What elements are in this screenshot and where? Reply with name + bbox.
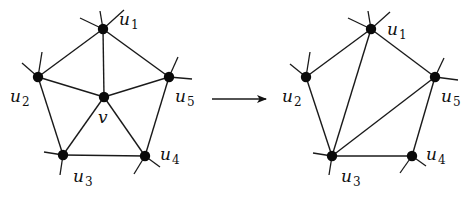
edge-u1-u2 xyxy=(38,29,103,77)
vertex-subscript: 3 xyxy=(85,175,93,189)
edge-u2-u3 xyxy=(306,77,332,156)
edge-u5-u1 xyxy=(103,29,169,77)
vertex-label-u4: u4 xyxy=(160,144,180,167)
vertex-label-u2: u2 xyxy=(282,86,302,109)
graph-transformation-diagram: u1u2u3u4u5v u1u2u3u4u5 xyxy=(0,0,472,200)
vertex-u1 xyxy=(98,24,108,34)
vertex-u2 xyxy=(33,72,43,82)
vertex-u5 xyxy=(164,72,174,82)
edge-u1-u2 xyxy=(306,29,371,77)
vertex-label-v: v xyxy=(98,107,108,127)
vertex-label-u3: u3 xyxy=(341,166,361,189)
vertex-u1 xyxy=(366,24,376,34)
vertex-u4 xyxy=(407,151,417,161)
vertex-label-u1: u1 xyxy=(387,19,407,42)
diagram-canvas: u1u2u3u4u5v u1u2u3u4u5 xyxy=(0,0,472,200)
vertex-label-u5: u5 xyxy=(441,86,461,109)
vertex-subscript: 4 xyxy=(172,153,180,167)
vertex-label-u2: u2 xyxy=(10,86,30,109)
vertex-subscript: 1 xyxy=(131,18,139,32)
vertex-subscript: 2 xyxy=(294,95,302,109)
vertex-label-u1: u1 xyxy=(119,9,139,32)
vertex-subscript: 2 xyxy=(22,95,30,109)
right-graph-after: u1u2u3u4u5 xyxy=(282,11,461,189)
edge-v-u4 xyxy=(104,97,145,156)
vertex-label-u3: u3 xyxy=(73,166,93,189)
vertex-u4 xyxy=(140,151,150,161)
vertex-subscript: 4 xyxy=(438,153,446,167)
vertex-u2 xyxy=(301,72,311,82)
edge-v-u2 xyxy=(38,77,104,97)
edge-v-u1 xyxy=(103,29,104,97)
edge-u2-u3 xyxy=(38,77,63,155)
edge-v-u5 xyxy=(104,77,169,97)
vertex-subscript: 3 xyxy=(353,175,361,189)
edge-u3-u1 xyxy=(332,29,371,156)
vertex-subscript: 1 xyxy=(399,28,407,42)
vertex-u5 xyxy=(430,72,440,82)
vertex-v xyxy=(99,92,109,102)
vertex-subscript: 5 xyxy=(453,95,461,109)
left-graph-before: u1u2u3u4u5v xyxy=(10,9,195,189)
vertex-subscript: 5 xyxy=(187,95,195,109)
vertex-u3 xyxy=(58,150,68,160)
vertex-label-u4: u4 xyxy=(426,144,446,167)
edge-u3-u4 xyxy=(63,155,145,156)
vertex-label-u5: u5 xyxy=(175,86,195,109)
vertex-u3 xyxy=(327,151,337,161)
edge-u3-u5 xyxy=(332,77,435,156)
